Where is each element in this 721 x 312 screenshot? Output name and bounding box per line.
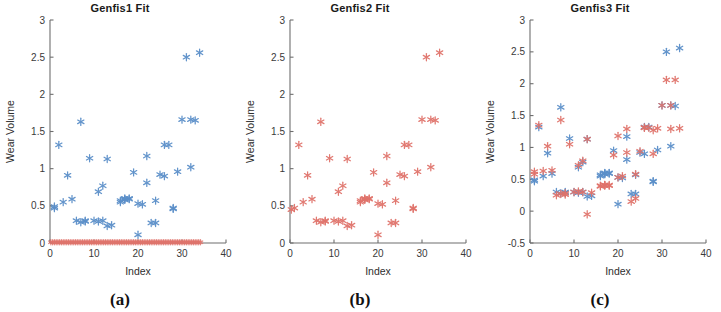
data-point-marker bbox=[540, 167, 546, 174]
data-point-marker bbox=[340, 182, 346, 189]
data-point-marker bbox=[419, 116, 425, 123]
series-observed bbox=[51, 49, 202, 238]
y-axis-label: Wear Volume bbox=[4, 100, 16, 163]
x-tick-label: 0 bbox=[287, 248, 293, 259]
data-point-marker bbox=[335, 188, 341, 195]
y-tick-label: -0.5 bbox=[508, 238, 526, 249]
subcaption-c: (c) bbox=[480, 290, 720, 310]
y-tick-label: 2.5 bbox=[31, 52, 45, 63]
data-point-marker bbox=[668, 125, 674, 132]
y-tick-label: 2 bbox=[519, 78, 525, 89]
data-point-marker bbox=[566, 141, 572, 148]
panel-genfis3: Genfis3 Fit -0.500.511.522.53010203040In… bbox=[480, 0, 720, 312]
x-tick-label: 20 bbox=[372, 248, 384, 259]
data-point-marker bbox=[148, 219, 154, 226]
data-point-marker bbox=[300, 199, 306, 206]
data-point-marker bbox=[423, 54, 429, 61]
data-point-marker bbox=[179, 116, 185, 123]
data-point-marker bbox=[188, 164, 194, 171]
y-tick-label: 0.5 bbox=[31, 200, 45, 211]
y-tick-label: 1 bbox=[39, 163, 45, 174]
data-point-marker bbox=[183, 54, 189, 61]
data-point-marker bbox=[104, 155, 110, 162]
data-point-marker bbox=[624, 149, 630, 156]
x-tick-label: 30 bbox=[656, 248, 668, 259]
data-point-marker bbox=[152, 219, 158, 226]
x-tick-label: 20 bbox=[612, 248, 624, 259]
y-tick-label: 1.5 bbox=[31, 126, 45, 137]
data-point-marker bbox=[384, 152, 390, 159]
panel-genfis2: Genfis2 Fit 00.511.522.53010203040IndexW… bbox=[240, 0, 480, 312]
data-point-marker bbox=[375, 231, 381, 238]
data-point-marker bbox=[401, 141, 407, 148]
data-point-marker bbox=[309, 196, 315, 203]
scatter-plot-genfis1: 00.511.522.53010203040IndexWear Volume bbox=[0, 0, 240, 280]
data-point-marker bbox=[392, 219, 398, 226]
data-point-marker bbox=[60, 199, 66, 206]
data-point-marker bbox=[428, 164, 434, 171]
data-point-marker bbox=[615, 201, 621, 208]
data-point-marker bbox=[86, 155, 92, 162]
x-tick-label: 10 bbox=[88, 248, 100, 259]
scatter-plot-genfis3: -0.500.511.522.53010203040IndexWear Volu… bbox=[480, 0, 720, 280]
figure-container: Genfis1 Fit 00.511.522.53010203040IndexW… bbox=[0, 0, 721, 312]
x-tick-label: 30 bbox=[416, 248, 428, 259]
data-point-marker bbox=[584, 211, 590, 218]
y-tick-label: 0 bbox=[519, 206, 525, 217]
y-tick-label: 2 bbox=[279, 89, 285, 100]
data-point-marker bbox=[296, 141, 302, 148]
data-point-marker bbox=[95, 188, 101, 195]
data-point-marker bbox=[615, 132, 621, 139]
y-tick-label: 1.5 bbox=[271, 126, 285, 137]
y-tick-label: 1.5 bbox=[511, 110, 525, 121]
x-tick-label: 40 bbox=[460, 248, 472, 259]
data-point-marker bbox=[384, 179, 390, 186]
data-point-marker bbox=[531, 171, 537, 178]
data-point-marker bbox=[370, 169, 376, 176]
data-point-marker bbox=[558, 104, 564, 111]
y-tick-label: 1 bbox=[279, 163, 285, 174]
x-axis-label: Index bbox=[365, 265, 391, 277]
data-point-marker bbox=[161, 141, 167, 148]
data-point-marker bbox=[663, 76, 669, 83]
y-tick-label: 1 bbox=[519, 142, 525, 153]
y-tick-label: 2.5 bbox=[271, 52, 285, 63]
data-point-marker bbox=[624, 133, 630, 140]
data-point-marker bbox=[318, 118, 324, 125]
x-tick-label: 10 bbox=[568, 248, 580, 259]
series-predicted bbox=[49, 240, 203, 245]
data-point-marker bbox=[388, 219, 394, 226]
data-point-marker bbox=[436, 49, 442, 56]
data-point-marker bbox=[544, 143, 550, 150]
x-tick-label: 0 bbox=[47, 248, 53, 259]
data-point-marker bbox=[558, 116, 564, 123]
data-point-marker bbox=[144, 179, 150, 186]
data-point-marker bbox=[544, 150, 550, 157]
y-tick-label: 0 bbox=[279, 238, 285, 249]
data-point-marker bbox=[144, 152, 150, 159]
x-tick-label: 10 bbox=[328, 248, 340, 259]
data-point-marker bbox=[326, 155, 332, 162]
y-axis-label: Wear Volume bbox=[244, 100, 256, 163]
data-point-marker bbox=[100, 182, 106, 189]
data-point-marker bbox=[56, 141, 62, 148]
subcaption-a: (a) bbox=[0, 290, 240, 310]
data-point-marker bbox=[676, 44, 682, 51]
data-point-marker bbox=[624, 156, 630, 163]
data-point-marker bbox=[668, 143, 674, 150]
x-tick-label: 20 bbox=[132, 248, 144, 259]
data-point-marker bbox=[659, 102, 665, 109]
data-point-marker bbox=[406, 141, 412, 148]
y-tick-label: 2 bbox=[39, 89, 45, 100]
x-tick-label: 30 bbox=[176, 248, 188, 259]
subcaption-b: (b) bbox=[240, 290, 480, 310]
series-predicted bbox=[288, 49, 443, 238]
data-point-marker bbox=[624, 125, 630, 132]
data-point-marker bbox=[78, 118, 84, 125]
data-point-marker bbox=[584, 136, 590, 143]
y-tick-label: 0.5 bbox=[511, 174, 525, 185]
x-tick-label: 40 bbox=[220, 248, 232, 259]
data-point-marker bbox=[663, 48, 669, 55]
data-point-marker bbox=[166, 141, 172, 148]
data-point-marker bbox=[69, 196, 75, 203]
